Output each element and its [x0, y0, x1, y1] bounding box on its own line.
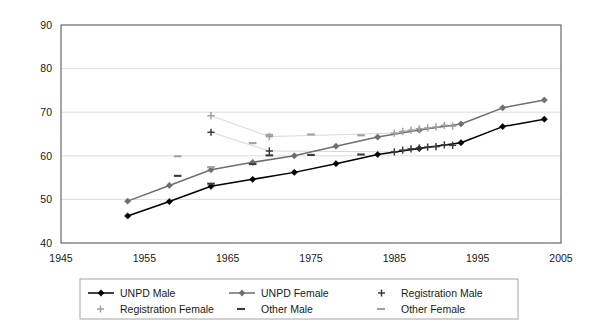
- x-tick-label: 1975: [299, 252, 323, 264]
- x-tick-label: 1955: [133, 252, 157, 264]
- marker-registration-female: [449, 123, 456, 130]
- marker-registration-female: [416, 125, 423, 132]
- marker-registration-male: [399, 147, 406, 154]
- series-lines-group: [128, 100, 545, 216]
- marker-unpd-male: [250, 176, 256, 182]
- legend-label-unpd-female: UNPD Female: [261, 287, 329, 299]
- marker-registration-male: [416, 144, 423, 151]
- y-tick-label: 60: [40, 150, 52, 162]
- y-tick-label: 80: [40, 62, 52, 74]
- marker-unpd-female: [500, 105, 506, 111]
- y-tick-label: 90: [40, 19, 52, 31]
- marker-unpd-female: [541, 97, 547, 103]
- marker-unpd-female: [291, 153, 297, 159]
- marker-registration-female: [207, 112, 214, 119]
- x-tick-label: 1945: [49, 252, 73, 264]
- life-expectancy-line-chart: 405060708090 194519551965197519851995200…: [0, 0, 606, 335]
- marker-registration-male: [391, 148, 398, 155]
- marker-unpd-female: [166, 182, 172, 188]
- marker-unpd-male: [541, 116, 547, 122]
- series-connector-registration-female: [211, 116, 453, 137]
- marker-registration-female: [432, 123, 439, 130]
- y-axis-tick-labels: 405060708090: [40, 19, 52, 249]
- marker-registration-female: [441, 122, 448, 129]
- marker-registration-male: [432, 143, 439, 150]
- marker-registration-female: [391, 130, 398, 137]
- marker-registration-male: [407, 145, 414, 152]
- marker-registration-male: [207, 129, 214, 136]
- legend-label-registration-male: Registration Male: [401, 287, 483, 299]
- marker-registration-male: [424, 143, 431, 150]
- marker-unpd-male: [125, 213, 131, 219]
- marker-unpd-male: [375, 151, 381, 157]
- marker-unpd-male: [458, 140, 464, 146]
- x-axis-tick-labels: 1945195519651975198519952005: [49, 252, 573, 264]
- y-tick-label: 70: [40, 106, 52, 118]
- marker-unpd-female: [458, 121, 464, 127]
- legend-label-registration-female: Registration Female: [120, 303, 214, 315]
- marker-unpd-male: [500, 123, 506, 129]
- x-tick-label: 1985: [383, 252, 407, 264]
- chart-legend: UNPD MaleUNPD FemaleRegistration MaleReg…: [80, 279, 518, 319]
- x-tick-label: 2005: [549, 252, 573, 264]
- series-line-unpd-male: [128, 119, 545, 216]
- marker-unpd-male: [333, 161, 339, 167]
- x-tick-label: 1965: [216, 252, 240, 264]
- legend-label-unpd-male: UNPD Male: [120, 287, 176, 299]
- y-tick-label: 40: [40, 237, 52, 249]
- marker-unpd-male: [291, 169, 297, 175]
- marker-registration-female: [424, 124, 431, 131]
- x-tick-label: 1995: [466, 252, 490, 264]
- marker-unpd-female: [333, 143, 339, 149]
- chart-container: 405060708090 194519551965197519851995200…: [0, 0, 606, 335]
- marker-registration-male: [266, 147, 273, 154]
- y-tick-label: 50: [40, 193, 52, 205]
- marker-unpd-female: [375, 134, 381, 140]
- legend-label-other-female: Other Female: [401, 303, 465, 315]
- legend-label-other-male: Other Male: [261, 303, 313, 315]
- series-line-unpd-female: [128, 100, 545, 201]
- marker-registration-male: [441, 141, 448, 148]
